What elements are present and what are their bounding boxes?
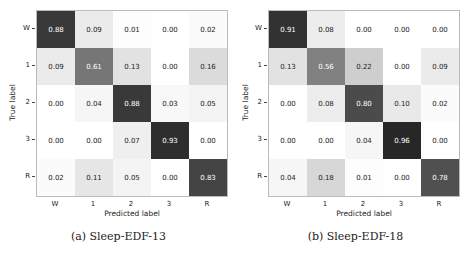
matrix-cell: 0.02 <box>189 11 227 48</box>
panel-sleep-edf-13: True label 0.880.090.010.000.020.090.610… <box>0 0 237 256</box>
matrix-cell: 0.03 <box>151 85 189 122</box>
matrix-cell: 0.00 <box>151 48 189 85</box>
matrix-cell: 0.00 <box>151 159 189 196</box>
matrix-cell: 0.11 <box>75 159 113 196</box>
matrix-cell: 0.13 <box>113 48 151 85</box>
matrix-cell: 0.00 <box>75 122 113 159</box>
x-axis-label: Predicted label <box>269 209 459 218</box>
panel-sleep-edf-18: True label 0.910.080.000.000.000.130.560… <box>237 0 474 256</box>
matrix-cell: 0.00 <box>151 11 189 48</box>
matrix-cell: 0.93 <box>151 122 189 159</box>
matrix-cell: 0.91 <box>269 11 307 48</box>
matrix-cell: 0.09 <box>37 48 75 85</box>
matrix-cell: 0.00 <box>345 11 383 48</box>
x-tick-label: 1 <box>83 200 103 208</box>
matrix-cell: 0.01 <box>113 11 151 48</box>
matrix-cell: 0.88 <box>37 11 75 48</box>
matrix-cell: 0.00 <box>37 85 75 122</box>
confusion-matrix: 0.910.080.000.000.000.130.560.220.000.09… <box>268 10 460 197</box>
y-tick-label: W <box>248 24 262 32</box>
x-tick-label: 3 <box>391 200 411 208</box>
matrix-cell: 0.07 <box>113 122 151 159</box>
y-tick-label: 3 <box>16 135 30 143</box>
y-tick-label: 1 <box>248 61 262 69</box>
matrix-cell: 0.08 <box>307 85 345 122</box>
matrix-cell: 0.00 <box>383 11 421 48</box>
x-tick-label: 2 <box>121 200 141 208</box>
y-tick-label: 3 <box>248 135 262 143</box>
matrix-cell: 0.04 <box>269 159 307 196</box>
matrix-cell: 0.09 <box>75 11 113 48</box>
caption: (a) Sleep-EDF-13 <box>0 230 237 243</box>
x-tick-label: 2 <box>353 200 373 208</box>
caption: (b) Sleep-EDF-18 <box>237 230 474 243</box>
matrix-cell: 0.00 <box>189 122 227 159</box>
y-tick-label: 2 <box>248 98 262 106</box>
x-tick-label: R <box>429 200 449 208</box>
matrix-cell: 0.02 <box>37 159 75 196</box>
y-tick-label: R <box>248 172 262 180</box>
matrix-cell: 0.18 <box>307 159 345 196</box>
matrix-cell: 0.00 <box>421 122 459 159</box>
matrix-cell: 0.00 <box>37 122 75 159</box>
matrix-cell: 0.00 <box>383 48 421 85</box>
matrix-cell: 0.13 <box>269 48 307 85</box>
matrix-cell: 0.22 <box>345 48 383 85</box>
x-tick-label: W <box>277 200 297 208</box>
x-axis-label: Predicted label <box>37 209 227 218</box>
matrix-cell: 0.00 <box>421 11 459 48</box>
matrix-cell: 0.78 <box>421 159 459 196</box>
matrix-cell: 0.01 <box>345 159 383 196</box>
y-tick-label: R <box>16 172 30 180</box>
matrix-cell: 0.02 <box>421 85 459 122</box>
x-tick-label: 3 <box>159 200 179 208</box>
x-tick-label: R <box>197 200 217 208</box>
y-tick-label: W <box>16 24 30 32</box>
matrix-cell: 0.88 <box>113 85 151 122</box>
matrix-cell: 0.83 <box>189 159 227 196</box>
matrix-cell: 0.04 <box>345 122 383 159</box>
matrix-cell: 0.00 <box>269 85 307 122</box>
y-tick-label: 1 <box>16 61 30 69</box>
matrix-cell: 0.00 <box>269 122 307 159</box>
matrix-cell: 0.05 <box>189 85 227 122</box>
x-tick-label: 1 <box>315 200 335 208</box>
matrix-cell: 0.16 <box>189 48 227 85</box>
matrix-cell: 0.00 <box>307 122 345 159</box>
matrix-cell: 0.09 <box>421 48 459 85</box>
matrix-cell: 0.96 <box>383 122 421 159</box>
x-tick-label: W <box>45 200 65 208</box>
matrix-cell: 0.56 <box>307 48 345 85</box>
matrix-cell: 0.04 <box>75 85 113 122</box>
y-tick-label: 2 <box>16 98 30 106</box>
matrix-cell: 0.10 <box>383 85 421 122</box>
matrix-cell: 0.80 <box>345 85 383 122</box>
matrix-cell: 0.08 <box>307 11 345 48</box>
matrix-cell: 0.00 <box>383 159 421 196</box>
matrix-cell: 0.61 <box>75 48 113 85</box>
confusion-matrix: 0.880.090.010.000.020.090.610.130.000.16… <box>36 10 228 197</box>
matrix-cell: 0.05 <box>113 159 151 196</box>
